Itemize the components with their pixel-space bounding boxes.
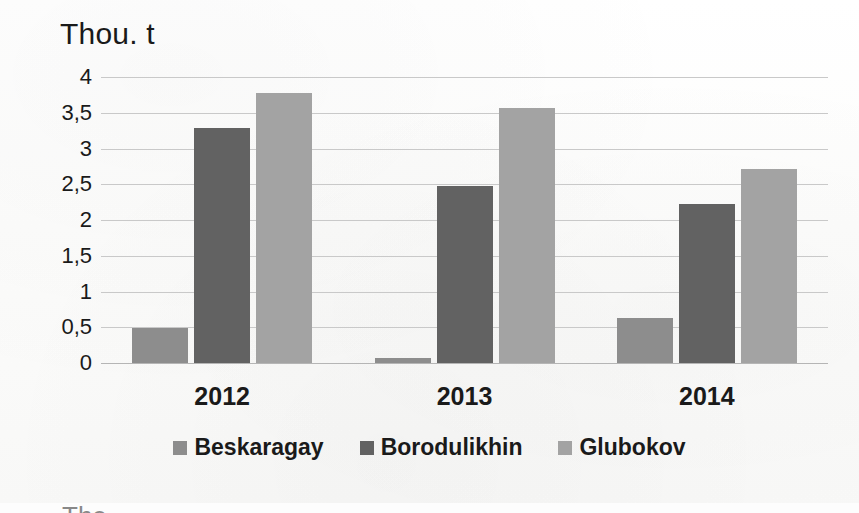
bar-borodulikhin-2012: [194, 128, 250, 363]
bar-borodulikhin-2013: [437, 186, 493, 363]
x-axis-category-labels: 201220132014: [101, 382, 828, 412]
legend-item-borodulikhin[interactable]: Borodulikhin: [360, 436, 523, 459]
x-axis-label-2013: 2013: [437, 382, 493, 411]
y-axis-tick-labels: 43,532,521,510,50: [36, 77, 92, 363]
bar-glubokov-2014: [741, 169, 797, 363]
x-axis-label-2014: 2014: [679, 382, 735, 411]
y-axis-tick-label: 1: [36, 281, 92, 303]
legend-swatch-icon: [558, 441, 572, 455]
y-axis-tick-label: 0: [36, 352, 92, 374]
legend-item-glubokov[interactable]: Glubokov: [558, 436, 685, 459]
gridline: [101, 113, 828, 114]
caption-fragment: The ...: [62, 501, 136, 513]
gridline: [101, 77, 828, 78]
x-axis-label-2012: 2012: [194, 382, 250, 411]
y-axis-tick-label: 3,5: [36, 102, 92, 124]
plot-area: [101, 77, 828, 363]
y-axis-tick-label: 0,5: [36, 316, 92, 338]
y-axis-unit-title: Thou. t: [60, 17, 155, 51]
axis-baseline: [101, 363, 828, 364]
y-axis-tick-label: 1,5: [36, 245, 92, 267]
y-axis-tick-label: 2: [36, 209, 92, 231]
bar-glubokov-2013: [499, 108, 555, 363]
bar-beskaragay-2014: [617, 318, 673, 363]
bar-borodulikhin-2014: [679, 204, 735, 363]
legend-label: Borodulikhin: [381, 436, 523, 459]
y-axis-tick-label: 3: [36, 138, 92, 160]
legend-item-beskaragay[interactable]: Beskaragay: [173, 436, 323, 459]
y-axis-tick-label: 2,5: [36, 173, 92, 195]
bar-glubokov-2012: [256, 93, 312, 363]
legend-label: Beskaragay: [194, 436, 323, 459]
y-axis-tick-label: 4: [36, 66, 92, 88]
bar-beskaragay-2013: [375, 358, 431, 363]
legend-swatch-icon: [173, 441, 187, 455]
bar-beskaragay-2012: [132, 328, 188, 363]
chart-legend: BeskaragayBorodulikhinGlubokov: [0, 436, 859, 459]
legend-label: Glubokov: [579, 436, 685, 459]
legend-swatch-icon: [360, 441, 374, 455]
